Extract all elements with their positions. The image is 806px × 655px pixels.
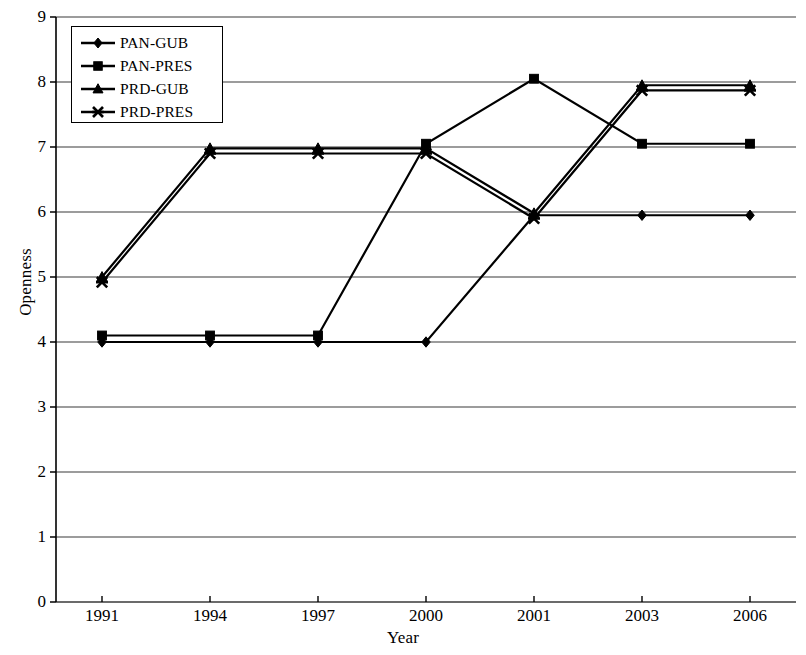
legend-item-pan-gub[interactable]: PAN-GUB [72,31,222,54]
series-pan-gub [98,210,755,347]
marker-square [746,139,755,148]
legend-marker-diamond-icon [79,34,117,52]
marker-square [314,331,323,340]
legend-label: PRD-GUB [117,81,189,97]
legend-label: PAN-GUB [117,35,188,51]
line-chart: Openness 9876543210 19911994199720002001… [0,0,806,655]
x-axis-title: Year [0,628,806,648]
marker-square [638,139,647,148]
legend-marker-x-icon [79,103,117,121]
series-line [102,215,750,342]
legend-label: PRD-PRES [117,104,193,120]
marker-x [92,107,104,117]
legend-label: PAN-PRES [117,58,193,74]
legend-item-pan-pres[interactable]: PAN-PRES [72,54,222,77]
marker-square [206,331,215,340]
marker-square [530,74,539,83]
legend: PAN-GUBPAN-PRESPRD-GUBPRD-PRES [71,26,223,123]
marker-diamond [94,38,102,48]
marker-square [98,331,107,340]
marker-square [94,61,103,70]
legend-marker-square-icon [79,57,117,75]
legend-marker-triangle-icon [79,80,117,98]
legend-item-prd-gub[interactable]: PRD-GUB [72,77,222,100]
legend-item-prd-pres[interactable]: PRD-PRES [72,100,222,123]
